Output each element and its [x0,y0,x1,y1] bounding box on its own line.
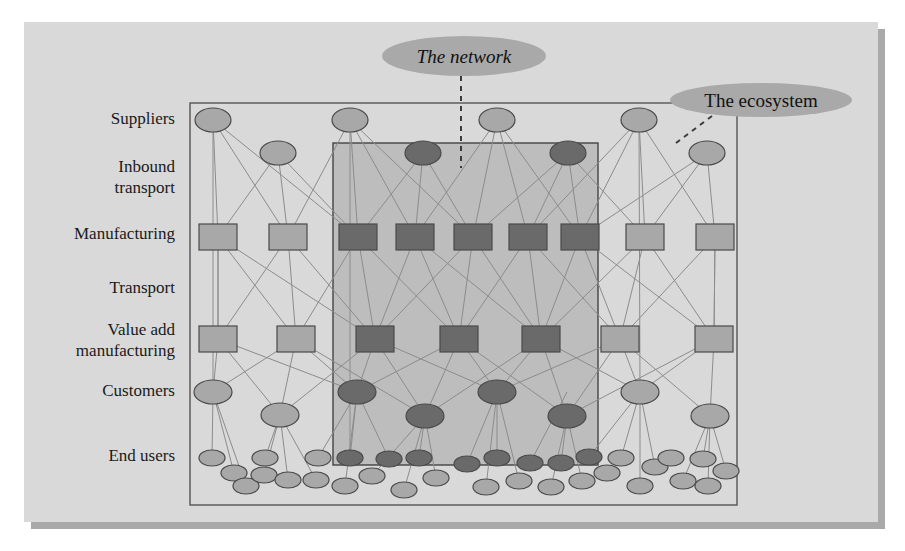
node-value_add-light[interactable] [601,326,639,352]
node-inbound_transport-dark[interactable] [405,141,441,165]
node-end_users-dark[interactable] [337,450,363,466]
node-end_users-light[interactable] [627,478,653,494]
node-end_users-light[interactable] [251,467,277,483]
node-end_users-dark[interactable] [406,450,432,466]
node-end_users-light[interactable] [658,450,684,466]
row-label-suppliers: Suppliers [111,109,175,128]
node-end_users-light[interactable] [359,468,385,484]
node-end_users-light[interactable] [594,465,620,481]
node-end_users-dark[interactable] [484,450,510,466]
node-end_users-light[interactable] [199,450,225,466]
node-end_users-light[interactable] [303,472,329,488]
node-inbound_transport-light[interactable] [689,141,725,165]
node-manufacturing-dark[interactable] [396,224,434,250]
node-customers-dark[interactable] [548,404,586,428]
node-manufacturing-light[interactable] [269,224,307,250]
node-value_add-light[interactable] [695,326,733,352]
node-end_users-light[interactable] [506,473,532,489]
node-end_users-dark[interactable] [517,455,543,471]
node-manufacturing-light[interactable] [199,224,237,250]
node-customers-light[interactable] [194,380,232,404]
node-suppliers-light[interactable] [479,108,515,132]
figure-stage: SuppliersInboundtransportManufacturingTr… [0,0,905,551]
node-end_users-light[interactable] [695,478,721,494]
node-customers-dark[interactable] [478,380,516,404]
node-value_add-dark[interactable] [440,326,478,352]
node-end_users-light[interactable] [473,479,499,495]
node-manufacturing-dark[interactable] [561,224,599,250]
node-end_users-light[interactable] [332,478,358,494]
network-ecosystem-diagram: SuppliersInboundtransportManufacturingTr… [0,0,905,551]
node-customers-dark[interactable] [406,404,444,428]
node-customers-light[interactable] [621,380,659,404]
node-end_users-light[interactable] [569,473,595,489]
row-label-transport: Transport [110,278,176,297]
node-suppliers-light[interactable] [621,108,657,132]
callout-label: The ecosystem [704,90,818,111]
node-customers-light[interactable] [261,403,299,427]
node-end_users-dark[interactable] [454,456,480,472]
callout-label: The network [417,46,512,67]
node-end_users-light[interactable] [690,451,716,467]
node-inbound_transport-light[interactable] [260,141,296,165]
node-manufacturing-light[interactable] [696,224,734,250]
node-end_users-light[interactable] [670,473,696,489]
node-end_users-light[interactable] [275,472,301,488]
node-end_users-light[interactable] [252,450,278,466]
node-end_users-light[interactable] [538,479,564,495]
row-label-customers: Customers [102,381,175,400]
node-value_add-dark[interactable] [522,326,560,352]
node-end_users-light[interactable] [713,463,739,479]
node-end_users-light[interactable] [423,470,449,486]
node-manufacturing-light[interactable] [626,224,664,250]
node-value_add-light[interactable] [199,326,237,352]
row-label-manufacturing: Manufacturing [74,224,176,243]
row-label-end-users: End users [108,446,175,465]
node-end_users-dark[interactable] [376,451,402,467]
node-value_add-dark[interactable] [356,326,394,352]
node-suppliers-light[interactable] [332,108,368,132]
node-manufacturing-dark[interactable] [509,224,547,250]
node-manufacturing-dark[interactable] [454,224,492,250]
node-end_users-light[interactable] [391,482,417,498]
node-customers-dark[interactable] [338,380,376,404]
node-inbound_transport-dark[interactable] [550,141,586,165]
node-end_users-light[interactable] [305,450,331,466]
node-end_users-dark[interactable] [576,449,602,465]
node-end_users-light[interactable] [608,450,634,466]
node-suppliers-light[interactable] [195,108,231,132]
node-customers-light[interactable] [691,404,729,428]
node-value_add-light[interactable] [277,326,315,352]
node-end_users-dark[interactable] [548,455,574,471]
node-manufacturing-dark[interactable] [339,224,377,250]
